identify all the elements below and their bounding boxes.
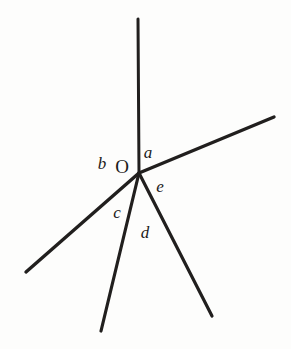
diagram-canvas [0, 0, 291, 349]
angle-label-c: c [113, 204, 121, 221]
rays-group [26, 19, 274, 331]
vertex-label-o: O [115, 157, 129, 176]
angle-label-b: b [98, 155, 107, 172]
angle-label-a: a [144, 144, 153, 161]
ray-upper-right [139, 117, 274, 173]
angle-diagram-figure: a b c d e O [0, 0, 291, 349]
ray-bottom-right [139, 173, 212, 316]
angle-label-e: e [156, 178, 164, 195]
angle-label-d: d [141, 224, 150, 241]
ray-lower-left [26, 173, 139, 272]
ray-up [138, 19, 139, 173]
ray-bottom-center [101, 173, 139, 331]
